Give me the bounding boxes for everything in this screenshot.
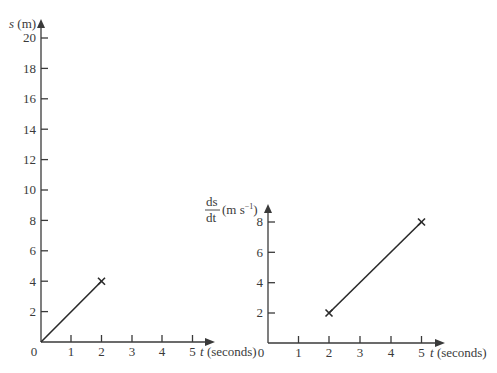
x-tick-label: 3 (129, 344, 136, 359)
figure: 2 4 6 8 10 12 14 16 18 20 0 1 2 3 4 5 (0, 0, 497, 373)
x-tick-labels: 0 1 2 3 4 5 (258, 345, 425, 360)
x-tick-label: 2 (326, 345, 333, 360)
y-tick-label: 8 (30, 213, 37, 228)
y-ticks (41, 38, 48, 312)
x-tick-label: 5 (418, 345, 425, 360)
y-ticks (268, 222, 275, 313)
x-axis-label: t (seconds) (430, 345, 487, 360)
y-tick-label: 4 (257, 275, 264, 290)
x-tick-label: 2 (98, 344, 105, 359)
y-tick-label: 14 (23, 122, 37, 137)
y-tick-label: 10 (23, 182, 36, 197)
y-tick-label: 4 (30, 274, 37, 289)
y-axis-label: ds dt (m s−1) (205, 194, 258, 225)
x-tick-label: 4 (159, 344, 166, 359)
origin-label: 0 (258, 345, 265, 360)
x-tick-label: 1 (295, 345, 302, 360)
x-tick-label: 5 (189, 344, 196, 359)
y-tick-label: 18 (23, 61, 36, 76)
y-tick-labels: 2 4 6 8 10 12 14 16 18 20 (23, 30, 37, 319)
y-tick-label: 2 (30, 304, 37, 319)
velocity-line (329, 222, 422, 313)
y-tick-labels: 2 4 6 8 (257, 214, 264, 320)
y-tick-label: 6 (30, 243, 37, 258)
x-ticks (299, 336, 422, 343)
origin-label: 0 (31, 344, 38, 359)
y-tick-label: 6 (257, 245, 264, 260)
displacement-chart: 2 4 6 8 10 12 14 16 18 20 0 1 2 3 4 5 (9, 16, 257, 359)
cross-marker-icon (98, 278, 105, 285)
y-axis-label: s (m) (9, 16, 36, 31)
x-tick-label: 3 (357, 345, 364, 360)
y-axis-arrow-icon (264, 204, 272, 213)
y-axis-arrow-icon (37, 19, 45, 28)
y-tick-label: 16 (23, 91, 37, 106)
x-axis-label: t (seconds) (200, 344, 257, 359)
x-ticks (71, 335, 193, 342)
displacement-line (41, 281, 102, 342)
y-tick-label: 2 (257, 305, 264, 320)
cross-marker-icon (326, 310, 333, 317)
y-tick-label: 20 (23, 30, 36, 45)
y-label-numerator: ds (206, 194, 218, 209)
y-label-unit: (m s−1) (222, 202, 258, 217)
cross-marker-icon (418, 219, 425, 226)
x-tick-labels: 0 1 2 3 4 5 (31, 344, 196, 359)
y-label-denominator: dt (206, 210, 217, 225)
x-tick-label: 1 (68, 344, 75, 359)
velocity-chart: 2 4 6 8 0 1 2 3 4 5 ds dt (m s−1) t (se (205, 194, 487, 360)
y-tick-label: 12 (23, 152, 36, 167)
x-tick-label: 4 (388, 345, 395, 360)
